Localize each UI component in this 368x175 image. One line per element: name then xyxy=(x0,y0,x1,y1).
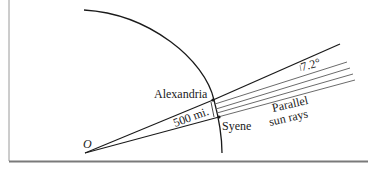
alexandria-label: Alexandria xyxy=(154,87,208,101)
eratosthenes-diagram: O Alexandria Syene 500 mi. 7.2° Parallel… xyxy=(0,0,368,175)
sun-ray xyxy=(215,62,347,104)
radius-to-syene xyxy=(85,117,219,153)
syene-point xyxy=(217,115,220,118)
alexandria-point xyxy=(211,98,214,101)
syene-label: Syene xyxy=(222,119,251,133)
center-label: O xyxy=(83,137,92,151)
distance-marker xyxy=(211,102,214,117)
earth-surface-arc xyxy=(84,10,222,153)
alexandria-vertical-line xyxy=(213,44,340,100)
diagram-frame: O Alexandria Syene 500 mi. 7.2° Parallel… xyxy=(0,0,368,175)
distance-label: 500 mi. xyxy=(171,104,210,130)
